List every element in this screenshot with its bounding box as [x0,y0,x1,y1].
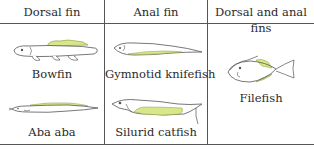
fish-label-gymnotid-knifefish: Gymnotid knifefish [105,67,207,81]
silurid-catfish-illustration [108,96,204,126]
header-anal-fin: Anal fin [105,4,207,20]
bottom-rule [0,144,314,145]
fish-label-aba-aba: Aba aba [0,125,104,139]
header-dorsal-fin: Dorsal fin [0,4,104,20]
fish-label-bowfin: Bowfin [0,67,104,81]
fin-propulsion-table: Dorsal fin Anal fin Dorsal and anal fins… [0,0,314,149]
header-dorsal-and-anal-fins: Dorsal and anal fins [208,4,314,20]
gymnotid-knifefish-illustration [110,38,204,62]
fish-label-filefish: Filefish [208,91,314,105]
fish-label-silurid-catfish: Silurid catfish [105,125,207,139]
bowfin-illustration [8,36,100,66]
filefish-illustration [222,54,304,90]
aba-aba-illustration [8,100,100,116]
